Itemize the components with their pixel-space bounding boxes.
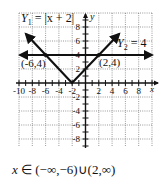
graph: -10-8-6-4-224688642-2-4-6-8 Y1 = |x + 2|… [0, 0, 165, 150]
x-tick-label: 8 [136, 86, 141, 96]
x-tick-label: 4 [110, 86, 115, 96]
y2-label: Y2 = 4 [117, 36, 146, 52]
y-tick-label: -2 [73, 92, 81, 102]
y-tick-label: -4 [73, 106, 81, 116]
x-tick-label: 2 [97, 86, 102, 96]
y1-label: Y1 = |x + 2| [21, 11, 74, 27]
x-tick-label: -6 [42, 86, 50, 96]
x-tick-label: -8 [29, 86, 37, 96]
y-tick-label: 6 [76, 36, 81, 46]
y-tick-label: -8 [73, 134, 81, 144]
x-tick-label: 6 [123, 86, 128, 96]
x-axis-label: x [149, 84, 154, 94]
x-tick-label: -10 [13, 86, 25, 96]
y-axis-label: y [89, 11, 95, 22]
axes [16, 14, 158, 148]
y-tick-label: 8 [76, 22, 81, 32]
annotation-right-point: (2,4) [99, 56, 120, 69]
annotation-left-point: (-6,4) [21, 57, 46, 70]
y-tick-label: -6 [73, 120, 81, 130]
y-tick-label: 2 [76, 64, 81, 74]
solution-set: x ∈ (−∞,−6)∪(2,∞) [12, 162, 115, 178]
x-tick-label: -4 [55, 86, 63, 96]
